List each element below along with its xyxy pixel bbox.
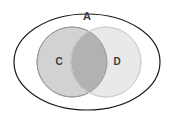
- venn-diagram-canvas: A C D: [0, 0, 175, 119]
- universe-set-label: A: [83, 10, 91, 22]
- set-d-label: D: [113, 56, 120, 67]
- set-c-label: C: [55, 56, 62, 67]
- venn-diagram-svg: A C D: [0, 0, 175, 119]
